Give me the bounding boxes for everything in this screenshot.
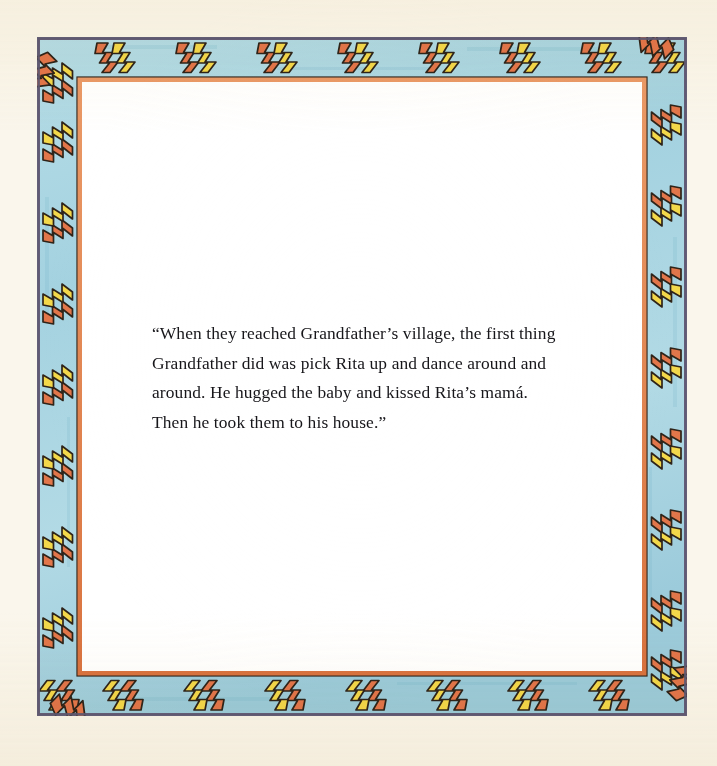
story-line: around. He hugged the baby and kissed Ri… [152, 378, 600, 408]
book-page: “When they reached Grandfather’s village… [0, 0, 717, 766]
story-line: “When they reached Grandfather’s village… [152, 319, 600, 349]
illustration-field: “When they reached Grandfather’s village… [82, 82, 642, 671]
story-line: Grandfather did was pick Rita up and dan… [152, 349, 600, 379]
story-line: Then he took them to his house.” [152, 408, 600, 438]
story-text: “When they reached Grandfather’s village… [152, 319, 600, 437]
